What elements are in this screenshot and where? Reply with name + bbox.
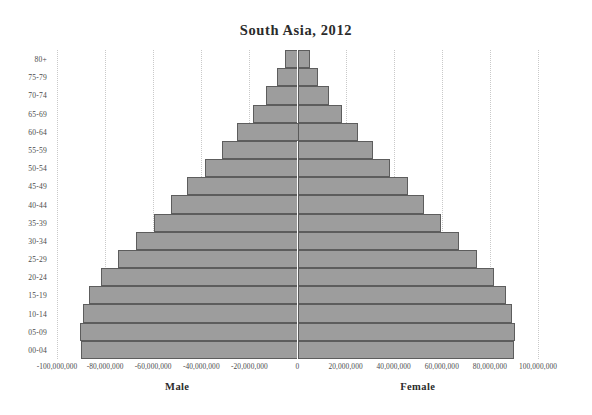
bar-female-40-44	[298, 195, 424, 213]
bar-male-15-19	[89, 286, 297, 304]
x-axis-tick-4: -20,000,000	[231, 362, 268, 371]
bar-male-20-24	[101, 268, 297, 286]
bar-female-15-19	[298, 286, 506, 304]
y-axis-tick-75-79: 75-79	[28, 73, 47, 82]
bar-male-60-64	[237, 123, 297, 141]
bar-female-45-49	[298, 177, 409, 195]
x-axis-tick-0: -100,000,000	[37, 362, 78, 371]
x-axis-tick-8: 60,000,000	[425, 362, 459, 371]
x-axis-tick-5: 0	[296, 362, 300, 371]
bar-female-10-14	[298, 304, 512, 322]
gridline-10	[538, 50, 539, 359]
y-axis-tick-00-04: 00-04	[28, 345, 47, 354]
bar-male-75-79	[277, 68, 297, 86]
bar-female-60-64	[298, 123, 358, 141]
plot-area	[57, 50, 538, 359]
chart-title: South Asia, 2012	[0, 22, 592, 39]
y-axis-tick-55-59: 55-59	[28, 145, 47, 154]
bar-male-35-39	[154, 214, 297, 232]
bar-female-80+	[298, 50, 310, 68]
x-axis-tick-2: -60,000,000	[135, 362, 172, 371]
zero-axis-line	[298, 50, 299, 359]
y-axis-tick-15-19: 15-19	[28, 291, 47, 300]
bar-male-10-14	[83, 304, 297, 322]
bar-male-80+	[285, 50, 297, 68]
bar-male-55-59	[222, 141, 298, 159]
bar-male-00-04	[81, 341, 297, 359]
y-axis-tick-65-69: 65-69	[28, 109, 47, 118]
y-axis-tick-05-09: 05-09	[28, 327, 47, 336]
y-axis-age-groups: 80+75-7970-7465-6960-6455-5950-5445-4940…	[0, 50, 53, 359]
axis-label-male: Male	[165, 381, 189, 392]
y-axis-tick-25-29: 25-29	[28, 255, 47, 264]
bar-male-30-34	[136, 232, 297, 250]
bar-female-35-39	[298, 214, 441, 232]
x-axis-tick-10: 100,000,000	[519, 362, 557, 371]
bar-female-65-69	[298, 105, 342, 123]
population-pyramid-chart: South Asia, 2012 80+75-7970-7465-6960-64…	[0, 0, 592, 415]
bar-female-75-79	[298, 68, 318, 86]
bar-male-45-49	[187, 177, 298, 195]
y-axis-tick-60-64: 60-64	[28, 127, 47, 136]
y-axis-tick-50-54: 50-54	[28, 164, 47, 173]
y-axis-tick-20-24: 20-24	[28, 273, 47, 282]
x-axis-tick-3: -40,000,000	[183, 362, 220, 371]
bar-female-00-04	[298, 341, 514, 359]
bar-female-05-09	[298, 323, 516, 341]
bar-female-55-59	[298, 141, 374, 159]
y-axis-tick-45-49: 45-49	[28, 182, 47, 191]
y-axis-tick-40-44: 40-44	[28, 200, 47, 209]
bar-female-30-34	[298, 232, 459, 250]
axis-label-female: Female	[400, 381, 435, 392]
y-axis-tick-10-14: 10-14	[28, 309, 47, 318]
bar-female-20-24	[298, 268, 494, 286]
bar-male-05-09	[80, 323, 298, 341]
x-axis-tick-9: 80,000,000	[473, 362, 507, 371]
y-axis-tick-80+: 80+	[35, 55, 47, 64]
y-axis-tick-35-39: 35-39	[28, 218, 47, 227]
x-axis-tick-6: 20,000,000	[328, 362, 362, 371]
bar-male-65-69	[253, 105, 297, 123]
bar-male-25-29	[118, 250, 297, 268]
y-axis-tick-30-34: 30-34	[28, 236, 47, 245]
bar-male-70-74	[266, 86, 297, 104]
bar-female-50-54	[298, 159, 391, 177]
bar-male-50-54	[205, 159, 298, 177]
x-axis-tick-1: -80,000,000	[87, 362, 124, 371]
bar-female-25-29	[298, 250, 477, 268]
y-axis-tick-70-74: 70-74	[28, 91, 47, 100]
x-axis-population-ticks: -100,000,000-80,000,000-60,000,000-40,00…	[0, 362, 592, 376]
bar-female-70-74	[298, 86, 329, 104]
bar-male-40-44	[171, 195, 297, 213]
x-axis-tick-7: 40,000,000	[377, 362, 411, 371]
